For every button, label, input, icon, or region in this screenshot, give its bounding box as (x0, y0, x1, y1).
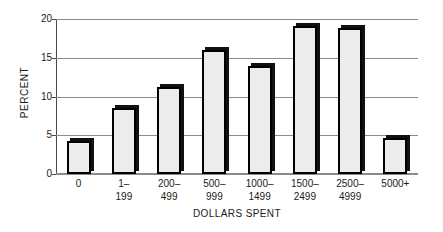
y-axis-tick-label: 5 (30, 130, 52, 140)
bar-slot (112, 19, 136, 174)
x-axis-tick-label-line1: 200– (158, 178, 180, 189)
gridline (56, 174, 418, 175)
x-axis-tick-label: 1500–2499 (282, 177, 327, 203)
y-axis-tick (52, 97, 56, 98)
y-axis-tick (52, 135, 56, 136)
bar (202, 50, 226, 174)
x-axis-tick-label-line2: 2499 (282, 190, 327, 203)
bar-slot (202, 19, 226, 174)
y-axis-tick-label: 15 (30, 53, 52, 63)
x-axis-title: DOLLARS SPENT (56, 208, 418, 219)
x-axis-tick-label-line2: 499 (147, 190, 192, 203)
x-axis-tick-label: 200–499 (147, 177, 192, 203)
x-axis-tick-label: 5000+ (373, 177, 418, 190)
y-axis-tick-label: 0 (30, 169, 52, 179)
bar (248, 66, 272, 174)
x-axis-tick-label-line1: 5000+ (381, 178, 409, 189)
x-axis-tick-label-line2: 999 (192, 190, 237, 203)
x-axis-tick-label-line1: 0 (76, 178, 82, 189)
x-axis-tick-label: 500–999 (192, 177, 237, 203)
x-axis-tick-label-line2: 199 (101, 190, 146, 203)
bar (338, 28, 362, 174)
bar (383, 138, 407, 174)
plot-area (56, 19, 418, 174)
bar (293, 26, 317, 174)
x-axis-tick-label-line2: 4999 (328, 190, 373, 203)
bar (67, 141, 91, 174)
bar-slot (248, 19, 272, 174)
y-axis-tick-label: 10 (30, 92, 52, 102)
y-axis-tick-label: 20 (30, 14, 52, 24)
x-axis-tick-label-line1: 500– (203, 178, 225, 189)
bar-slot (293, 19, 317, 174)
y-axis-tick-labels: 05101520 (24, 0, 52, 232)
bar (157, 87, 181, 174)
x-axis-tick-label-line1: 2500– (336, 178, 364, 189)
x-axis-tick-label: 0 (56, 177, 101, 190)
x-axis-tick-label-line1: 1500– (291, 178, 319, 189)
y-axis-tick (52, 58, 56, 59)
bar-slot (383, 19, 407, 174)
x-axis-tick-label-line2: 1499 (237, 190, 282, 203)
gridline (56, 19, 418, 20)
x-axis-tick-label-line1: 1000– (246, 178, 274, 189)
bar-slot (157, 19, 181, 174)
y-axis-tick (52, 174, 56, 175)
bar-slot (338, 19, 362, 174)
bar (112, 108, 136, 174)
x-axis-tick-label-line1: 1– (118, 178, 129, 189)
x-axis-tick-label: 1–199 (101, 177, 146, 203)
x-axis-tick-label: 1000–1499 (237, 177, 282, 203)
x-axis-tick-label: 2500–4999 (328, 177, 373, 203)
bar-chart: PERCENT 05101520 01–199200–499500–999100… (0, 0, 443, 232)
y-axis-tick (52, 19, 56, 20)
bar-slot (67, 19, 91, 174)
